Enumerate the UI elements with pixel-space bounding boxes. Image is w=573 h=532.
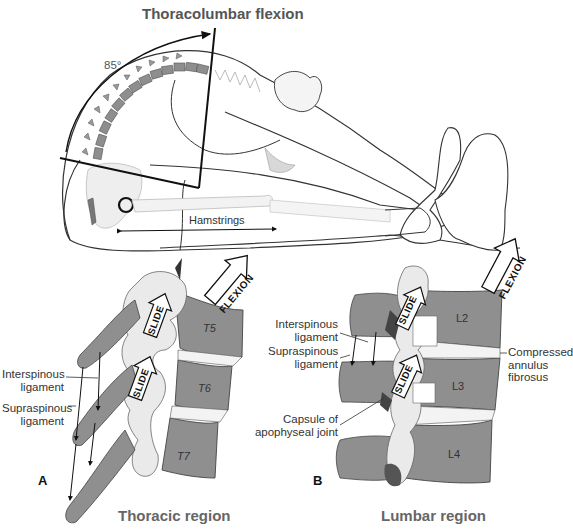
vertebra-label-t6: T6 bbox=[198, 382, 211, 394]
vertebra-label-l2: L2 bbox=[456, 312, 468, 324]
vertebra-label-t5: T5 bbox=[203, 322, 216, 334]
vertebra-label-t7: T7 bbox=[177, 450, 190, 462]
vertebra-label-l3: L3 bbox=[452, 380, 464, 392]
lumbar-panel bbox=[336, 232, 527, 486]
interspinous-label-b: Interspinous ligament bbox=[268, 318, 338, 343]
seated-figure bbox=[63, 51, 520, 251]
angle-label: 85° bbox=[104, 59, 121, 72]
region-title-thoracic: Thoracic region bbox=[118, 508, 231, 525]
figure-title: Thoracolumbar flexion bbox=[142, 6, 304, 23]
vertebra-label-l4: L4 bbox=[448, 448, 460, 460]
interspinous-label-a: Interspinous ligament bbox=[2, 368, 64, 393]
supraspinous-label-a: Supraspinous ligament bbox=[2, 402, 64, 427]
panel-letter-a: A bbox=[38, 474, 47, 488]
annulus-label-b: Compressed annulus fibrosus bbox=[508, 346, 573, 384]
capsule-label-b: Capsule of apophyseal joint bbox=[250, 413, 338, 438]
region-title-lumbar: Lumbar region bbox=[381, 508, 486, 525]
hamstrings-label: Hamstrings bbox=[189, 214, 245, 226]
vertebra-body-t7 bbox=[162, 418, 218, 478]
thoracic-panel bbox=[66, 247, 258, 523]
panel-letter-b: B bbox=[313, 474, 322, 488]
supraspinous-label-b: Supraspinous ligament bbox=[268, 345, 338, 370]
